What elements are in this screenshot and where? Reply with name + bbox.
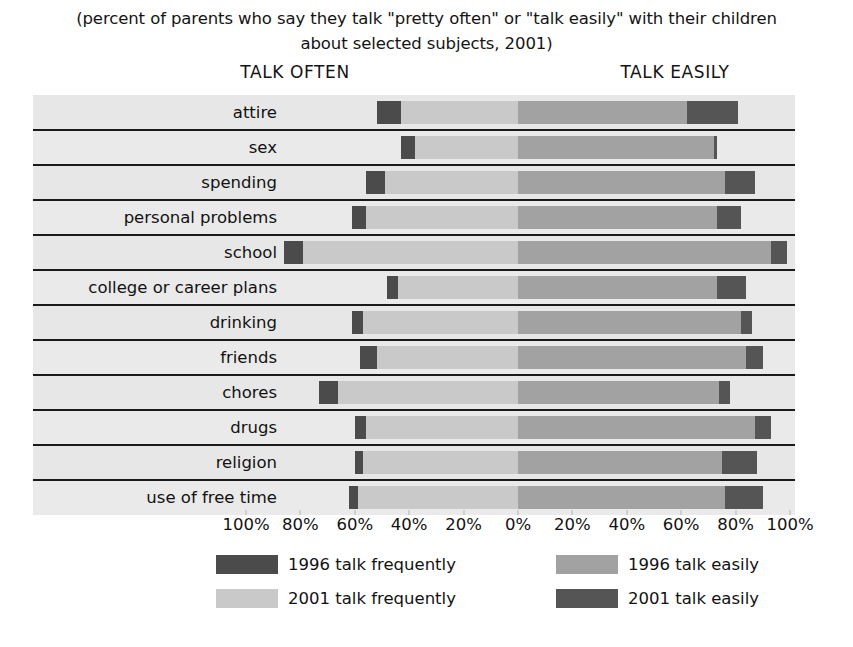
bar-1996-talk-frequently: [377, 101, 401, 124]
bar-1996-talk-easily: [518, 381, 719, 404]
category-label: drugs: [33, 410, 286, 445]
bar-2001-talk-frequently: [363, 311, 518, 334]
axis-tick-label: 100%: [222, 515, 269, 534]
axis-tick-label: 80%: [282, 515, 319, 534]
bar-1996-talk-frequently: [355, 451, 363, 474]
bar-1996-talk-easily: [518, 416, 755, 439]
legend-swatch: [556, 589, 618, 608]
axis-header-talk-easily: TALK EASILY: [560, 62, 790, 82]
bar-1996-talk-easily: [518, 346, 746, 369]
bar-2001-talk-frequently: [358, 486, 518, 509]
bar-1996-talk-frequently: [349, 486, 357, 509]
axis-tick-label: 60%: [336, 515, 373, 534]
plot-area: attiresexspendingpersonal problemsschool…: [33, 95, 795, 515]
chart-page: (percent of parents who say they talk "p…: [0, 0, 853, 647]
legend-swatch: [216, 555, 278, 574]
legend-item: 2001 talk frequently: [216, 589, 456, 608]
bar-2001-talk-easily: [746, 346, 762, 369]
axis-tick-label: 20%: [445, 515, 482, 534]
bar-2001-talk-easily: [717, 276, 747, 299]
legend-item: 1996 talk easily: [556, 555, 759, 574]
bar-1996-talk-frequently: [387, 276, 398, 299]
bar-2001-talk-frequently: [377, 346, 518, 369]
axis-tick-label: 0%: [505, 515, 531, 534]
bar-2001-talk-frequently: [338, 381, 518, 404]
bar-2001-talk-easily: [741, 311, 752, 334]
bar-2001-talk-frequently: [401, 101, 518, 124]
legend-item: 2001 talk easily: [556, 589, 759, 608]
bar-1996-talk-frequently: [401, 136, 415, 159]
category-label: sex: [33, 130, 286, 165]
bar-1996-talk-frequently: [352, 311, 363, 334]
bar-1996-talk-easily: [518, 451, 722, 474]
bar-1996-talk-easily: [518, 241, 771, 264]
bar-1996-talk-easily: [518, 486, 725, 509]
bar-2001-talk-easily: [687, 101, 739, 124]
category-label: college or career plans: [33, 270, 286, 305]
bar-2001-talk-frequently: [366, 416, 518, 439]
axis-tick-label: 40%: [608, 515, 645, 534]
bar-1996-talk-frequently: [319, 381, 338, 404]
category-label: school: [33, 235, 286, 270]
axis-tick-label: 40%: [391, 515, 428, 534]
bar-2001-talk-frequently: [303, 241, 518, 264]
category-label: friends: [33, 340, 286, 375]
bar-2001-talk-easily: [719, 381, 730, 404]
bar-1996-talk-easily: [518, 171, 725, 194]
bar-2001-talk-frequently: [385, 171, 518, 194]
bar-1996-talk-easily: [518, 276, 717, 299]
chart-subtitle-line1: (percent of parents who say they talk "p…: [76, 9, 777, 28]
legend-swatch: [216, 589, 278, 608]
bar-2001-talk-easily: [755, 416, 771, 439]
bar-2001-talk-easily: [771, 241, 787, 264]
bar-2001-talk-easily: [722, 451, 757, 474]
bar-1996-talk-frequently: [352, 206, 366, 229]
axis-tick-label: 100%: [766, 515, 813, 534]
bar-1996-talk-easily: [518, 101, 687, 124]
legend-item: 1996 talk frequently: [216, 555, 456, 574]
bar-2001-talk-frequently: [415, 136, 518, 159]
category-label: drinking: [33, 305, 286, 340]
bar-1996-talk-easily: [518, 136, 714, 159]
axis-tick-label: 20%: [554, 515, 591, 534]
bar-1996-talk-easily: [518, 206, 717, 229]
bar-1996-talk-frequently: [284, 241, 303, 264]
bar-2001-talk-easily: [725, 171, 755, 194]
chart-subtitle-line2: about selected subjects, 2001): [0, 31, 853, 56]
axis-header-talk-often: TALK OFTEN: [180, 62, 410, 82]
x-axis: 100%80%60%40%20%0%20%40%60%80%100%: [33, 515, 795, 543]
category-label: chores: [33, 375, 286, 410]
legend-label: 1996 talk frequently: [288, 555, 456, 574]
bar-1996-talk-easily: [518, 311, 741, 334]
bar-1996-talk-frequently: [360, 346, 376, 369]
bar-1996-talk-frequently: [366, 171, 385, 194]
chart-legend: 1996 talk frequently2001 talk frequently…: [33, 553, 823, 633]
bar-2001-talk-frequently: [363, 451, 518, 474]
chart-subtitle: (percent of parents who say they talk "p…: [0, 6, 853, 56]
axis-tick-label: 60%: [663, 515, 700, 534]
bar-2001-talk-easily: [717, 206, 741, 229]
category-label: personal problems: [33, 200, 286, 235]
bar-1996-talk-frequently: [355, 416, 366, 439]
category-label: attire: [33, 95, 286, 130]
bar-2001-talk-easily: [714, 136, 717, 159]
category-label: religion: [33, 445, 286, 480]
legend-swatch: [556, 555, 618, 574]
legend-label: 2001 talk frequently: [288, 589, 456, 608]
bar-2001-talk-frequently: [366, 206, 518, 229]
legend-label: 2001 talk easily: [628, 589, 759, 608]
axis-tick-label: 80%: [717, 515, 754, 534]
category-label: spending: [33, 165, 286, 200]
category-label: use of free time: [33, 480, 286, 515]
legend-label: 1996 talk easily: [628, 555, 759, 574]
bar-2001-talk-frequently: [398, 276, 518, 299]
bar-2001-talk-easily: [725, 486, 763, 509]
